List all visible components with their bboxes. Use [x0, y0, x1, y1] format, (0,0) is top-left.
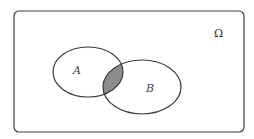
set-b-label: B: [145, 82, 154, 95]
universe-label: Ω: [214, 27, 223, 40]
set-a-label: A: [72, 64, 81, 77]
venn-diagram: A B Ω: [0, 0, 254, 139]
universe-rectangle: [14, 11, 244, 132]
